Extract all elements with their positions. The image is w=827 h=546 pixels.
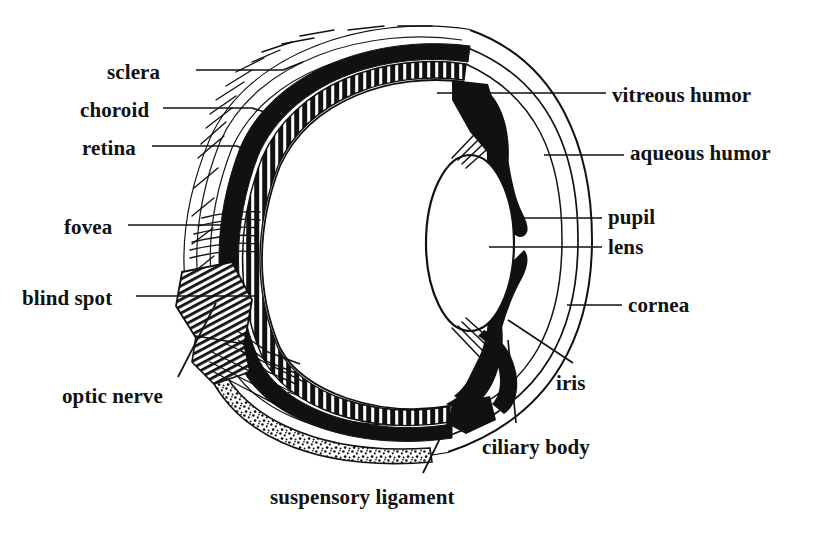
label-cornea: cornea (628, 295, 689, 316)
lens-structure (426, 155, 514, 331)
label-pupil: pupil (608, 207, 655, 228)
label-optic-nerve: optic nerve (62, 386, 163, 407)
label-aqueous-humor: aqueous humor (630, 143, 771, 164)
label-lens: lens (608, 237, 643, 258)
leader-line-iris (508, 320, 573, 363)
label-retina: retina (82, 138, 136, 159)
eye-anatomy-figure: sclera choroid retina fovea blind spot o… (0, 0, 827, 546)
label-fovea: fovea (64, 217, 112, 238)
label-sclera: sclera (107, 62, 160, 83)
label-vitreous-humor: vitreous humor (612, 85, 751, 106)
label-blind-spot: blind spot (22, 288, 112, 309)
label-ciliary-body: ciliary body (482, 437, 590, 458)
label-choroid: choroid (80, 100, 149, 121)
label-suspensory-ligament: suspensory ligament (270, 487, 455, 508)
label-iris: iris (556, 373, 586, 394)
